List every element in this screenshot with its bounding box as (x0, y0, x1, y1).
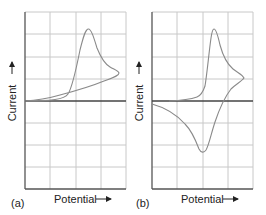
panel-a-label: (a) (11, 197, 24, 209)
panel-a-y-label: Current (6, 85, 18, 122)
panel-b-label: (b) (136, 197, 149, 209)
panel-a-voltammogram-curve (25, 29, 119, 101)
panel-b-y-label: Current (133, 85, 145, 122)
panel-b: Current Potential (b) (133, 12, 253, 209)
panel-b-voltammogram-curve (152, 29, 244, 152)
figure: Current Potential (a) (0, 0, 266, 215)
panel-b-x-label: Potential (181, 193, 224, 205)
panel-a-x-label: Potential (54, 193, 97, 205)
panel-a: Current Potential (a) (6, 12, 126, 209)
